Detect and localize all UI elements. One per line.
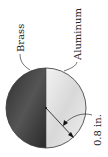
brass-half bbox=[6, 68, 46, 148]
aluminum-leader bbox=[64, 62, 77, 71]
aluminum-label: Aluminum bbox=[72, 8, 83, 61]
composite-bar-cross-section: Brass Aluminum 0.8 in. bbox=[0, 0, 108, 157]
aluminum-half bbox=[46, 68, 86, 148]
radius-label: 0.8 in. bbox=[92, 114, 103, 146]
brass-label: Brass bbox=[15, 24, 26, 52]
center-dot bbox=[45, 107, 47, 109]
brass-leader bbox=[20, 54, 30, 70]
